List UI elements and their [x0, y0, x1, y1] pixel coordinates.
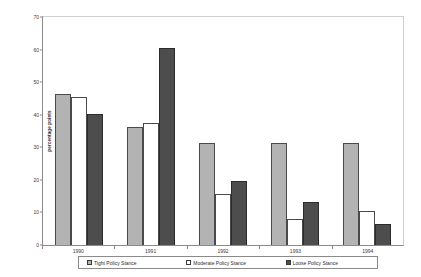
x-axis-tick-label: 1992	[187, 248, 259, 254]
legend-swatch-icon	[286, 260, 291, 265]
legend-label: Tight Policy Stance	[94, 260, 137, 266]
plot-area: percentage points 010203040506070	[42, 16, 404, 246]
bar[interactable]	[231, 181, 247, 245]
legend-item[interactable]: Moderate Policy Stance	[178, 260, 277, 266]
bar[interactable]	[215, 194, 231, 245]
bar[interactable]	[359, 211, 375, 246]
x-axis-tick-label: 1991	[114, 248, 186, 254]
bar[interactable]	[271, 143, 287, 245]
bar[interactable]	[71, 97, 87, 245]
bar-chart: percentage points 010203040506070 199019…	[0, 0, 421, 277]
bar[interactable]	[143, 123, 159, 245]
bar[interactable]	[375, 224, 391, 245]
legend-item[interactable]: Tight Policy Stance	[79, 260, 178, 266]
chart-legend: Tight Policy StanceModerate Policy Stanc…	[78, 256, 378, 269]
bar[interactable]	[127, 127, 143, 245]
bar-groups	[43, 17, 403, 245]
bar[interactable]	[87, 114, 103, 245]
legend-label: Moderate Policy Stance	[193, 260, 246, 266]
bar-group	[187, 17, 259, 245]
bar[interactable]	[287, 219, 303, 245]
x-axis-tick-label: 1993	[259, 248, 331, 254]
x-axis-tick-label: 1990	[42, 248, 114, 254]
legend-swatch-icon	[186, 260, 191, 265]
x-axis-tick-label: 1994	[332, 248, 404, 254]
bar[interactable]	[303, 202, 319, 245]
legend-item[interactable]: Loose Policy Stance	[278, 260, 377, 266]
bar[interactable]	[199, 143, 215, 245]
bar-group	[43, 17, 115, 245]
legend-label: Loose Policy Stance	[293, 260, 338, 266]
bar[interactable]	[159, 48, 175, 245]
bar[interactable]	[343, 143, 359, 245]
bar-group	[259, 17, 331, 245]
bar-group	[115, 17, 187, 245]
bar-group	[331, 17, 403, 245]
legend-swatch-icon	[87, 260, 92, 265]
bar[interactable]	[55, 94, 71, 245]
